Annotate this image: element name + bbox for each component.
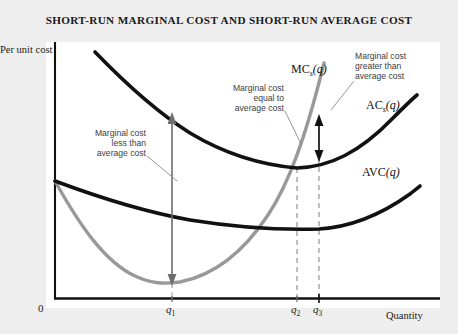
leader-marginal-greater: [331, 81, 354, 110]
annotation-marginal-equal-line1: Marginal cost: [200, 83, 284, 93]
annotation-marginal-equal-line3: average cost: [200, 103, 284, 113]
annotation-marginal-greater-line3: average cost: [355, 71, 451, 81]
arrow-gap-q1: [168, 112, 177, 286]
annotation-marginal-less-line1: Marginal cost: [62, 128, 146, 138]
curve-label-avc: AVC(q): [362, 165, 400, 180]
annotation-marginal-equal: Marginal cost equal to average cost: [200, 83, 284, 114]
curve-label-avc-arg: (q): [386, 165, 400, 179]
curve-label-ac: ACs(q): [366, 98, 400, 114]
annotation-marginal-greater: Marginal cost greater than average cost: [355, 51, 451, 82]
tick-label-q1: q1: [166, 303, 175, 318]
arrow-gap-q3: [315, 114, 324, 162]
annotation-marginal-less: Marginal cost less than average cost: [62, 128, 146, 159]
leader-marginal-equal: [285, 111, 301, 144]
tick-label-q2: q2: [291, 303, 300, 318]
tick-q3-sub: 3: [319, 309, 323, 318]
curve-label-ac-name: AC: [366, 98, 383, 112]
avc-curve: [55, 181, 420, 229]
curve-label-mc-arg: (q): [313, 62, 327, 76]
tick-q1-sub: 1: [172, 309, 176, 318]
annotation-marginal-equal-line2: equal to: [200, 93, 284, 103]
figure-container: SHORT-RUN MARGINAL COST AND SHORT-RUN AV…: [0, 0, 458, 334]
tick-label-q3: q3: [313, 303, 322, 318]
curve-label-mc: MCs(q): [291, 62, 327, 78]
annotation-marginal-greater-line2: greater than: [355, 61, 451, 71]
curve-label-avc-name: AVC: [362, 165, 386, 179]
y-axis-label-text: Per unit cost: [0, 44, 53, 55]
x-axis-label: Quantity: [386, 310, 423, 321]
annotation-marginal-less-line3: average cost: [62, 148, 146, 158]
annotation-marginal-greater-line1: Marginal cost: [355, 51, 451, 61]
y-axis-label: Per unit cost: [0, 44, 43, 57]
curve-label-mc-name: MC: [291, 62, 310, 76]
tick-q2-sub: 2: [297, 309, 301, 318]
origin-label: 0: [38, 302, 44, 314]
annotation-marginal-less-line2: less than: [62, 138, 146, 148]
curve-label-ac-arg: (q): [386, 98, 400, 112]
